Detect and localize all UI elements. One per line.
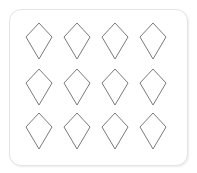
kite-icon <box>62 68 92 106</box>
kite-icon <box>24 68 54 106</box>
kite-tile-r3-c3[interactable] <box>100 112 130 150</box>
kite-icon <box>138 22 168 60</box>
kite-tile-r2-c4[interactable] <box>138 68 168 106</box>
kite-icon <box>138 112 168 150</box>
kite-tile-r3-c1[interactable] <box>24 112 54 150</box>
kite-icon <box>62 22 92 60</box>
kite-tile-r3-c4[interactable] <box>138 112 168 150</box>
kite-icon <box>24 22 54 60</box>
kite-icon <box>62 112 92 150</box>
kite-tile-r2-c2[interactable] <box>62 68 92 106</box>
kite-icon <box>138 68 168 106</box>
kite-icon <box>100 68 130 106</box>
kite-icon <box>24 112 54 150</box>
kite-tile-r1-c4[interactable] <box>138 22 168 60</box>
kite-icon <box>100 112 130 150</box>
kite-tile-r1-c1[interactable] <box>24 22 54 60</box>
kite-grid <box>0 0 197 173</box>
kite-tile-r1-c3[interactable] <box>100 22 130 60</box>
kite-tile-r1-c2[interactable] <box>62 22 92 60</box>
kite-icon <box>100 22 130 60</box>
kite-tile-r3-c2[interactable] <box>62 112 92 150</box>
kite-tile-r2-c3[interactable] <box>100 68 130 106</box>
kite-tile-r2-c1[interactable] <box>24 68 54 106</box>
